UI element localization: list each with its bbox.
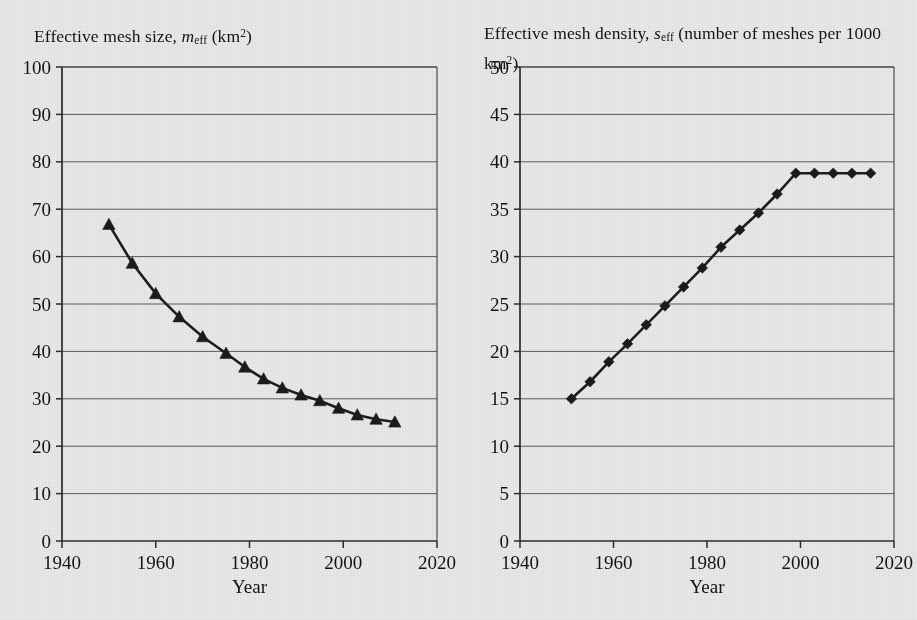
- y-tick-label: 50: [490, 57, 509, 78]
- y-tick-label: 20: [490, 341, 509, 362]
- x-tick-label: 1980: [688, 552, 726, 573]
- y-tick-label: 35: [490, 199, 509, 220]
- y-tick-label: 30: [32, 388, 51, 409]
- left-title-lead: Effective mesh size,: [34, 26, 182, 46]
- data-point-marker: [809, 168, 820, 179]
- x-tick-label: 2020: [418, 552, 456, 573]
- y-tick-label: 45: [490, 104, 509, 125]
- x-tick-label: 1940: [43, 552, 81, 573]
- x-tick-label: 1960: [137, 552, 175, 573]
- x-tick-label: 1940: [501, 552, 539, 573]
- x-tick-label: 2000: [782, 552, 820, 573]
- y-tick-label: 10: [32, 483, 51, 504]
- y-tick-label: 70: [32, 199, 51, 220]
- right-title-symbol: s: [654, 23, 661, 43]
- y-tick-label: 0: [42, 531, 52, 552]
- y-tick-label: 40: [490, 151, 509, 172]
- y-tick-label: 5: [500, 483, 510, 504]
- y-tick-label: 0: [500, 531, 510, 552]
- x-tick-label: 2020: [875, 552, 913, 573]
- y-tick-label: 15: [490, 388, 509, 409]
- y-tick-label: 25: [490, 294, 509, 315]
- y-tick-label: 80: [32, 151, 51, 172]
- right-title-subscript: eff: [661, 31, 674, 43]
- x-tick-label: 1960: [595, 552, 633, 573]
- data-point-marker: [103, 218, 115, 229]
- x-axis-label: Year: [232, 576, 268, 597]
- left-chart-svg: 0102030405060708090100194019601980200020…: [0, 48, 462, 608]
- y-tick-label: 10: [490, 436, 509, 457]
- right-title-lead: Effective mesh density,: [484, 23, 654, 43]
- data-point-marker: [847, 168, 858, 179]
- y-tick-label: 90: [32, 104, 51, 125]
- y-tick-label: 50: [32, 294, 51, 315]
- left-title-symbol: m: [182, 26, 195, 46]
- y-tick-label: 40: [32, 341, 51, 362]
- right-chart-svg: 0510152025303540455019401960198020002020…: [462, 48, 917, 608]
- data-point-marker: [257, 373, 269, 384]
- y-tick-label: 30: [490, 246, 509, 267]
- data-point-marker: [276, 382, 288, 393]
- series-line: [571, 173, 870, 399]
- y-tick-label: 20: [32, 436, 51, 457]
- x-tick-label: 1980: [231, 552, 269, 573]
- x-tick-label: 2000: [324, 552, 362, 573]
- y-tick-label: 60: [32, 246, 51, 267]
- left-title-trail-close: ): [246, 26, 252, 46]
- chart-panel-effective-mesh-density: Effective mesh density, seff (number of …: [462, 0, 917, 620]
- left-plot-area: 0102030405060708090100194019601980200020…: [0, 48, 462, 608]
- data-point-marker: [865, 168, 876, 179]
- series-line: [109, 224, 395, 422]
- y-tick-label: 100: [23, 57, 52, 78]
- left-title-trail-open: (km: [207, 26, 240, 46]
- data-point-marker: [828, 168, 839, 179]
- x-axis-label: Year: [689, 576, 725, 597]
- right-plot-area: 0510152025303540455019401960198020002020…: [462, 48, 917, 608]
- data-point-marker: [126, 257, 138, 268]
- left-title-subscript: eff: [194, 34, 207, 46]
- chart-panel-effective-mesh-size: Effective mesh size, meff (km2) 01020304…: [0, 0, 462, 620]
